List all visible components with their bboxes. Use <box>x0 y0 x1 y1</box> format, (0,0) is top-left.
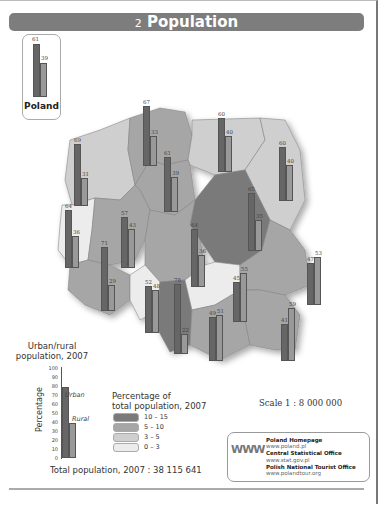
rural-value: 35 <box>256 213 263 219</box>
class-label: 5 – 10 <box>144 423 164 431</box>
urban-bar <box>65 210 72 268</box>
urban-bar <box>121 217 128 268</box>
urban-bar <box>209 317 216 361</box>
urban-bar <box>164 157 171 212</box>
class-label: 3 – 5 <box>144 433 160 441</box>
rural-bar <box>108 285 115 311</box>
urban-value: 69 <box>74 137 81 143</box>
link-title-stat: Central Statistical Office <box>266 450 342 456</box>
poland-label: Poland <box>23 101 60 111</box>
urban-value: 61 <box>164 150 171 156</box>
rural-value: 53 <box>315 250 322 256</box>
axis-tick: 80 <box>46 383 58 389</box>
urban-bar <box>307 263 314 305</box>
urban-bar <box>233 282 240 323</box>
swatch-3-5 <box>113 433 139 442</box>
rural-bar <box>150 136 157 166</box>
axis-tick: 70 <box>46 392 58 398</box>
rural-bar <box>72 236 79 268</box>
urban-bar <box>218 118 225 172</box>
www-icon: WWW <box>231 443 264 456</box>
urban-value: 45 <box>233 275 240 281</box>
rural-value: 39 <box>172 170 179 176</box>
axis-tick: 100 <box>46 365 58 371</box>
rural-bar <box>81 178 88 206</box>
rural-bar <box>198 255 205 287</box>
rural-value: 33 <box>151 129 158 135</box>
urban-bar <box>101 247 108 311</box>
swatch-5-10 <box>113 423 139 432</box>
choropleth-class-2: 5 – 10 <box>113 423 213 433</box>
link-stat[interactable]: www.stat.gov.pl <box>266 457 310 463</box>
urban-bar <box>74 144 81 206</box>
class-label: 0 – 3 <box>144 443 160 451</box>
rural-bar <box>181 334 188 354</box>
rural-value: 40 <box>226 129 233 135</box>
poland-summary-box: 61 39 Poland <box>22 34 61 120</box>
rural-value: 48 <box>153 283 160 289</box>
legend-rural-label: Rural <box>72 415 89 423</box>
axis-tick: 30 <box>46 428 58 434</box>
link-tourist[interactable]: www.polandtour.org <box>266 470 321 476</box>
rural-value: 51 <box>217 308 224 314</box>
rural-value: 29 <box>109 278 116 284</box>
urban-value: 64 <box>65 203 72 209</box>
axis-tick: 60 <box>46 401 58 407</box>
axis-tick: 40 <box>46 419 58 425</box>
rural-bar <box>314 257 321 305</box>
rural-bar <box>288 308 295 361</box>
rural-bar <box>225 136 232 172</box>
urban-value: 71 <box>101 240 108 246</box>
total-population: Total population, 2007 : 38 115 641 <box>50 465 202 475</box>
rural-value: 31 <box>82 171 89 177</box>
rural-value: 55 <box>241 266 248 272</box>
rural-bar <box>171 177 178 212</box>
choropleth-class-1: 10 – 15 <box>113 413 213 423</box>
urban-bar <box>174 284 181 354</box>
rural-bar <box>286 165 293 201</box>
axis-tick: 20 <box>46 437 58 443</box>
urban-value: 49 <box>209 310 216 316</box>
rural-value: 22 <box>182 327 189 333</box>
bar-legend-title-line1: Urban/rural <box>12 341 92 351</box>
link-poland[interactable]: www.poland.pl <box>266 443 306 449</box>
class-label: 10 – 15 <box>144 413 168 421</box>
bar-legend-title-line2: population, 2007 <box>12 351 92 361</box>
rural-bar <box>152 290 159 333</box>
poland-rural-value: 39 <box>41 55 48 61</box>
map-scale: Scale 1 : 8 000 000 <box>259 398 342 408</box>
axis-tick: 90 <box>46 374 58 380</box>
urban-bar <box>281 324 288 361</box>
legend-urban-label: Urban <box>65 391 85 399</box>
choropleth-title-line1: Percentage of <box>112 391 222 401</box>
urban-value: 60 <box>218 111 225 117</box>
urban-value: 41 <box>281 317 288 323</box>
urban-bar <box>143 106 150 166</box>
rural-value: 36 <box>73 229 80 235</box>
urban-bar <box>191 229 198 287</box>
urban-value: 64 <box>191 222 198 228</box>
choropleth-title-line2: total population, 2007 <box>112 401 222 411</box>
urban-value: 52 <box>145 279 152 285</box>
poland-urban-bar <box>33 44 40 97</box>
urban-value: 57 <box>121 210 128 216</box>
axis-label-percentage: Percentage <box>35 387 44 432</box>
axis-tick: 10 <box>46 446 58 452</box>
rural-bar <box>216 315 223 361</box>
rural-value: 59 <box>289 301 296 307</box>
legend-rural-bar <box>69 423 76 458</box>
urban-value: 60 <box>279 140 286 146</box>
urban-value: 47 <box>307 256 314 262</box>
rural-bar <box>240 273 247 323</box>
axis-tick: 0 <box>46 455 58 461</box>
axis-tick: 50 <box>46 410 58 416</box>
poland-urban-value: 61 <box>32 36 39 42</box>
poland-rural-bar <box>40 63 47 97</box>
swatch-10-15 <box>113 413 139 422</box>
urban-bar <box>145 286 152 333</box>
links-box: WWW Poland Homepage www.poland.pl Centra… <box>227 432 370 482</box>
rural-value: 40 <box>287 158 294 164</box>
urban-value: 78 <box>174 277 181 283</box>
urban-bar <box>248 193 255 252</box>
rural-bar <box>255 220 262 252</box>
